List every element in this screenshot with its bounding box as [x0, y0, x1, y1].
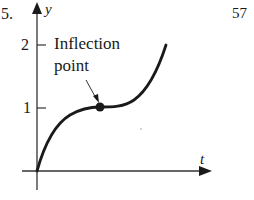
y-axis-arrow-icon [32, 2, 42, 14]
graph [0, 0, 254, 200]
speck [140, 128, 142, 130]
inflection-point-dot [96, 103, 105, 112]
x-axis-arrow-icon [199, 166, 212, 176]
